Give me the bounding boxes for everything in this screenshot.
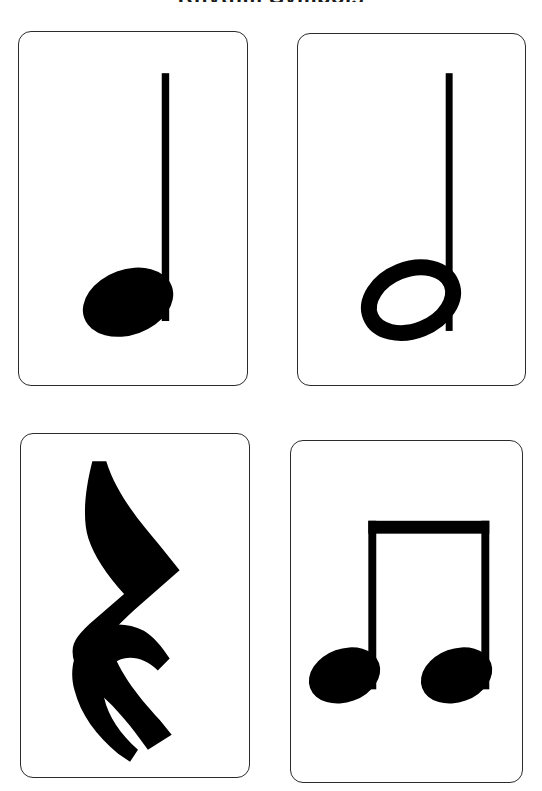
beamed-eighth-notes-icon <box>291 441 522 782</box>
flashcard-quarter-note[interactable] <box>18 31 248 386</box>
flashcard-beamed-eighth-notes[interactable] <box>290 440 523 783</box>
flashcard-half-note[interactable] <box>297 33 526 386</box>
flashcard-sheet: Rhythm Symbols <box>0 0 542 791</box>
quarter-rest-icon <box>21 434 249 777</box>
quarter-note-icon <box>19 32 247 385</box>
page-title: Rhythm Symbols <box>0 0 542 2</box>
half-note-icon <box>298 34 525 385</box>
flashcard-quarter-rest[interactable] <box>20 433 250 778</box>
